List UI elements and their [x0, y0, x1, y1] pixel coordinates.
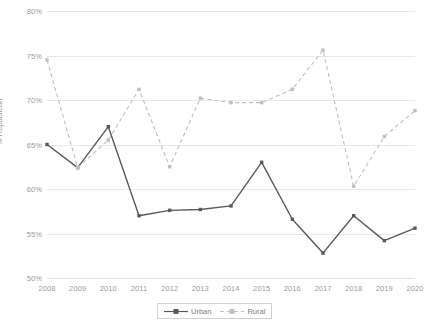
data-point-marker[interactable] — [168, 165, 171, 168]
data-point-marker[interactable] — [352, 214, 355, 217]
x-axis-tick-label: 2010 — [100, 284, 117, 293]
legend-swatch-rural-icon — [220, 307, 244, 316]
y-axis-tick-label: 75% — [2, 51, 42, 60]
data-point-marker[interactable] — [168, 209, 171, 212]
x-axis-tick-label: 2012 — [161, 284, 178, 293]
x-axis-tick-label: 2009 — [69, 284, 86, 293]
data-point-marker[interactable] — [321, 251, 324, 254]
data-point-marker[interactable] — [291, 88, 294, 91]
x-axis-tick-label: 2019 — [376, 284, 393, 293]
data-point-marker[interactable] — [45, 58, 48, 61]
data-point-marker[interactable] — [137, 214, 140, 217]
x-axis-tick-label: 2014 — [222, 284, 239, 293]
y-axis-tick-label: 70% — [2, 96, 42, 105]
data-point-marker[interactable] — [413, 226, 416, 229]
x-axis-tick-label: 2017 — [314, 284, 331, 293]
chart-legend: Urban Rural — [157, 303, 272, 319]
data-point-marker[interactable] — [413, 109, 416, 112]
x-axis-tick-label: 2008 — [38, 284, 55, 293]
x-axis-tick-label: 2011 — [131, 284, 148, 293]
x-axis-tick-label: 2020 — [406, 284, 423, 293]
data-point-marker[interactable] — [137, 88, 140, 91]
data-point-marker[interactable] — [291, 218, 294, 221]
y-axis-title: % Republican — [0, 99, 4, 145]
y-axis-tick-label: 60% — [2, 185, 42, 194]
data-point-marker[interactable] — [229, 101, 232, 104]
data-point-marker[interactable] — [199, 208, 202, 211]
y-axis-tick-label: 80% — [2, 7, 42, 16]
x-axis-tick-label: 2013 — [192, 284, 209, 293]
data-point-marker[interactable] — [383, 135, 386, 138]
data-point-marker[interactable] — [383, 239, 386, 242]
y-axis-tick-label: 55% — [2, 229, 42, 238]
x-axis-tick-label: 2018 — [345, 284, 362, 293]
data-point-marker[interactable] — [107, 125, 110, 128]
series-line-urban — [47, 127, 415, 253]
series-layer — [47, 11, 415, 278]
line-chart: % Republican 50%55%60%65%70%75%80% 20082… — [0, 0, 425, 328]
y-axis-tick-label: 65% — [2, 140, 42, 149]
data-point-marker[interactable] — [45, 143, 48, 146]
y-axis-tick-label: 50% — [2, 274, 42, 283]
legend-item-urban[interactable]: Urban — [164, 307, 211, 316]
x-axis-line — [47, 278, 415, 279]
data-point-marker[interactable] — [199, 97, 202, 100]
series-line-rural — [47, 50, 415, 186]
x-axis-tick-label: 2015 — [253, 284, 270, 293]
data-point-marker[interactable] — [321, 48, 324, 51]
plot-area — [47, 11, 415, 278]
data-point-marker[interactable] — [352, 185, 355, 188]
x-axis-tick-label: 2016 — [284, 284, 301, 293]
data-point-marker[interactable] — [260, 161, 263, 164]
data-point-marker[interactable] — [260, 101, 263, 104]
data-point-marker[interactable] — [107, 138, 110, 141]
data-point-marker[interactable] — [76, 166, 79, 169]
legend-item-rural[interactable]: Rural — [220, 307, 265, 316]
legend-label-urban: Urban — [191, 307, 211, 316]
data-point-marker[interactable] — [229, 204, 232, 207]
legend-label-rural: Rural — [247, 307, 265, 316]
legend-swatch-urban-icon — [164, 307, 188, 316]
